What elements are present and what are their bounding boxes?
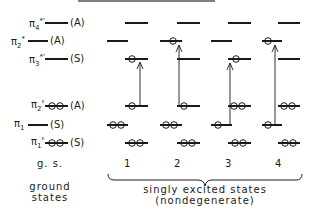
orbital-label-pi1-prime: π1' [31,137,44,151]
orbital-label-pi2-star: π2* [11,34,25,51]
column-label-1: 1 [124,159,130,169]
symmetry-pi1-prime: (S) [70,138,84,148]
orbital-label-pi3-star-prime: π3*' [29,52,45,69]
symmetry-pi4-star-prime: (A) [70,18,85,28]
orbital-label-pi1: π1 [14,119,25,133]
column-label-3: 3 [225,159,231,169]
excited-caption-line-1: singly excited states [130,184,280,195]
ground-states-caption: ground states [20,181,80,203]
ground-caption-line-2: states [20,192,80,203]
column-label-2: 2 [174,159,180,169]
excited-states-caption: singly excited states (nondegenerate) [130,184,280,206]
ground-caption-line-1: ground [20,181,80,192]
symmetry-pi2-prime: (A) [70,101,85,111]
orbital-label-pi4-star-prime: π4*' [29,16,45,33]
orbital-label-pi2-prime: π2' [31,100,44,114]
ground-state-label: g. s. [37,159,63,169]
symmetry-pi3-star-prime: (S) [70,54,84,64]
symmetry-pi1: (S) [50,120,64,130]
column-label-4: 4 [275,159,281,169]
excited-caption-line-2: (nondegenerate) [130,195,280,206]
symmetry-pi2-star: (A) [50,36,65,46]
